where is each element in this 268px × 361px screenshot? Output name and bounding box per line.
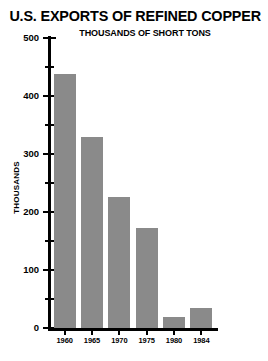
bars-group: 196019651970197519801984 (0, 0, 268, 361)
x-tick (91, 331, 93, 335)
x-tick (64, 331, 66, 335)
x-tick (146, 331, 148, 335)
bar (163, 317, 185, 328)
x-tick (200, 331, 202, 335)
bar (81, 137, 103, 328)
bar (190, 308, 212, 328)
bar (54, 74, 76, 328)
x-tick (173, 331, 175, 335)
bar (108, 197, 130, 328)
bar (136, 228, 158, 328)
x-tick-label: 1984 (181, 336, 221, 345)
x-tick (118, 331, 120, 335)
bar-chart-figure: U.S. EXPORTS OF REFINED COPPER THOUSANDS… (0, 0, 268, 361)
